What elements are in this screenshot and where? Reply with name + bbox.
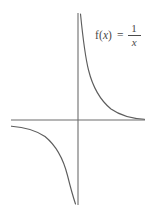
curve-branch-quadrant-3 <box>12 126 76 204</box>
function-notation: f(x) <box>95 30 112 42</box>
function-equation-label: f(x) = 1 x <box>95 23 141 48</box>
function-graph-figure: f(x) = 1 x <box>0 0 156 218</box>
close-paren-text: ) <box>108 29 112 41</box>
reciprocal-fraction: 1 x <box>128 23 141 48</box>
equals-sign: = <box>117 30 124 42</box>
fraction-denominator: x <box>130 36 139 48</box>
fraction-numerator: 1 <box>129 23 139 35</box>
